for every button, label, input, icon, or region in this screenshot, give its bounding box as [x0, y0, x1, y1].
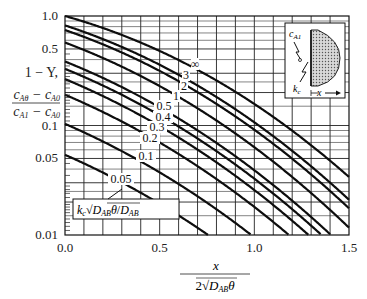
param-pointer-line [108, 189, 122, 199]
curve-label: 2 [181, 79, 187, 93]
y-axis-label: 1 − Y, [25, 65, 58, 80]
x-axis-label-num: x [212, 258, 219, 273]
curve-label: 0.1 [139, 149, 154, 163]
y-tick-label: 0.5 [42, 41, 58, 56]
curve-label: 0.2 [143, 131, 158, 145]
x-tick-label: 1.0 [246, 240, 262, 255]
x-tick-label: 0.5 [152, 240, 168, 255]
y-tick-label: 0.05 [35, 150, 58, 165]
x-tick-label: 0.0 [57, 240, 73, 255]
inset-diagram: cA1 kc x [285, 23, 345, 98]
y-axis-frac-num: cAθ − cA0 [13, 87, 60, 103]
y-tick-label: 1.0 [42, 8, 58, 23]
chart: ∞3210.50.40.30.20.10.05 1.00.50.10.050.0… [0, 0, 367, 299]
x-tick-label: 1.5 [341, 240, 357, 255]
curve-h-0.05 [65, 155, 208, 235]
x-axis-label-den: 2√DABθ [195, 278, 235, 294]
curve-label: 0.05 [111, 172, 132, 186]
y-tick-label: 0.01 [35, 227, 58, 242]
inset-label-x: x [316, 87, 322, 98]
curve-label: ∞ [191, 57, 200, 71]
y-axis-frac-den: cA1 − cA0 [13, 104, 60, 120]
